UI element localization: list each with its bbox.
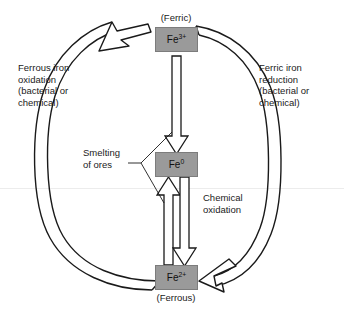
node-ferric-text: Fe3+ (167, 34, 186, 45)
node-metallic[interactable]: Fe0 (155, 152, 198, 177)
label-left-process: Ferrous iron oxidation (bacterial or che… (18, 62, 69, 108)
caption-ferrous: (Ferrous) (131, 292, 221, 303)
arrow-ferric-to-metallic (165, 56, 188, 154)
label-right-process: Ferric iron reduction (bacterial or chem… (259, 62, 309, 108)
node-ferrous[interactable]: Fe2+ (155, 265, 198, 290)
label-smelting: Smelting of ores (83, 147, 120, 170)
label-chemical-oxidation: Chemical oxidation (203, 192, 243, 215)
caption-ferric: (Ferric) (131, 12, 221, 23)
node-metallic-text: Fe0 (169, 159, 184, 170)
node-ferrous-text: Fe2+ (167, 272, 186, 283)
arrowhead-to-ferric (99, 22, 151, 51)
node-ferric[interactable]: Fe3+ (155, 27, 198, 52)
diagram-canvas: Fe3+ (Ferric) Fe0 Fe2+ (Ferrous) Ferrous… (0, 0, 344, 315)
